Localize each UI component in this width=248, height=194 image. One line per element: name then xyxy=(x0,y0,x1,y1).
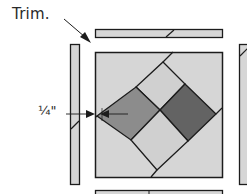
bottom-trim-strip xyxy=(96,190,223,194)
trim-arrow xyxy=(64,19,91,43)
right-trim-strip xyxy=(240,45,248,185)
trim-label: Trim. xyxy=(12,5,50,23)
quilt-block-diagram xyxy=(0,0,247,194)
seam-allowance-label: ¼" xyxy=(38,103,57,118)
left-trim-strip xyxy=(71,45,80,185)
top-trim-strip xyxy=(96,30,223,38)
